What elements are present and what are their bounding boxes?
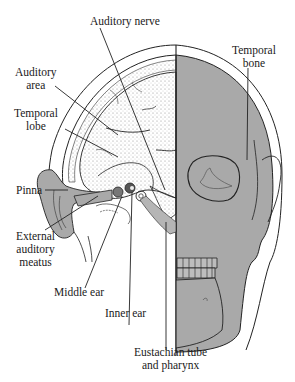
label-middle-ear: Middle ear [54, 286, 104, 299]
label-text: Eustachian tube [134, 346, 207, 359]
label-text: Middle ear [54, 286, 104, 298]
label-text: meatus [16, 256, 55, 269]
label-inner-ear: Inner ear [105, 307, 146, 320]
label-auditory-area: Auditory area [15, 66, 57, 92]
label-text: Temporal [14, 107, 58, 120]
label-pinna: Pinna [16, 184, 42, 197]
label-text: Temporal [232, 44, 276, 57]
label-text: Pinna [16, 184, 42, 196]
label-text: and pharynx [134, 359, 207, 372]
label-external-auditory-meatus: External auditory meatus [16, 230, 55, 269]
label-eustachian-tube: Eustachian tube and pharynx [134, 346, 207, 372]
label-text: area [15, 79, 57, 92]
label-text: auditory [16, 243, 55, 256]
label-text: Auditory nerve [90, 15, 160, 27]
label-auditory-nerve: Auditory nerve [90, 15, 160, 28]
label-text: External [16, 230, 55, 243]
label-text: Auditory [15, 66, 57, 79]
label-temporal-lobe: Temporal lobe [14, 107, 58, 133]
label-text: lobe [14, 120, 58, 133]
ear-anatomy-diagram: Auditory nerve Auditory area Temporal lo… [0, 0, 295, 382]
label-temporal-bone: Temporal bone [232, 44, 276, 70]
label-text: Inner ear [105, 307, 146, 319]
label-text: bone [232, 57, 276, 70]
